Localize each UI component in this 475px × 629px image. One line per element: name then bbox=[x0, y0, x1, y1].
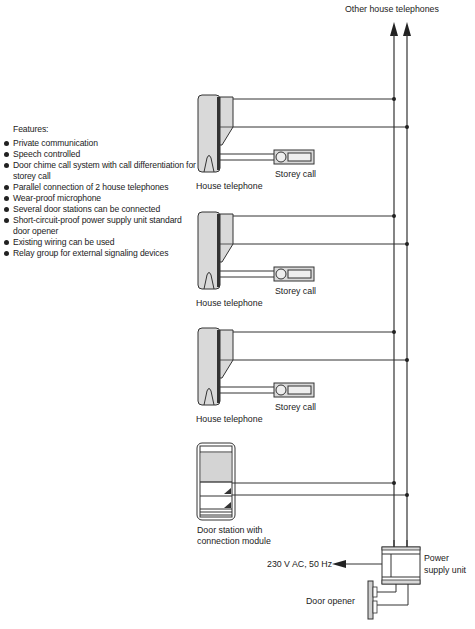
door-opener bbox=[368, 581, 408, 619]
house-telephone-1 bbox=[198, 95, 409, 172]
mains-input-label: 230 V AC, 50 Hz bbox=[267, 559, 332, 569]
house-telephone-2 bbox=[198, 212, 409, 289]
top-label: Other house telephones bbox=[345, 4, 440, 14]
arrow-up-icon bbox=[390, 22, 398, 36]
power-supply-unit bbox=[382, 540, 420, 584]
house-telephone-3 bbox=[198, 328, 409, 405]
door-station-label: connection module bbox=[197, 536, 271, 546]
door-station bbox=[197, 443, 409, 520]
storey-call-label: Storey call bbox=[275, 402, 316, 412]
door-opener-label: Door opener bbox=[306, 596, 355, 606]
storey-call-label: Storey call bbox=[275, 286, 316, 296]
arrow-up-icon bbox=[403, 22, 411, 36]
house-telephone-label: House telephone bbox=[196, 414, 263, 424]
power-supply-label: Power bbox=[424, 553, 449, 563]
power-supply-label: supply unit bbox=[424, 565, 467, 575]
house-telephone-label: House telephone bbox=[196, 181, 263, 191]
storey-call-label: Storey call bbox=[275, 169, 316, 179]
house-telephone-label: House telephone bbox=[196, 298, 263, 308]
door-station-label: Door station with bbox=[197, 525, 263, 535]
wiring-diagram: Other house telephones Storey call House… bbox=[0, 0, 475, 629]
arrow-left-icon bbox=[332, 560, 346, 568]
